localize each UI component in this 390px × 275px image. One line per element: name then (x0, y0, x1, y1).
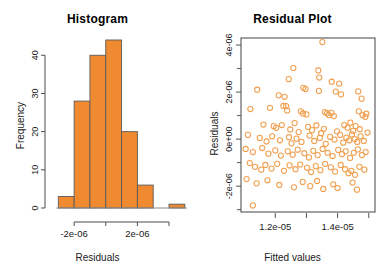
residual-y-tick-label: 0e+00 (224, 126, 234, 151)
residual-point (250, 203, 255, 208)
residual-point (295, 147, 300, 152)
residual-point (296, 129, 301, 134)
residual-point (288, 127, 293, 132)
residual-point (300, 179, 305, 184)
residual-point (314, 123, 319, 128)
histogram-bar (74, 101, 90, 208)
panel-residual: Residual Plot 4e-062e-060e+00-2e-061.2e-… (195, 0, 390, 275)
residual-point (275, 161, 280, 166)
histogram-bar (122, 132, 138, 208)
histogram-plot: 010203040-2e-062e-06 (0, 0, 195, 275)
residual-point (304, 112, 309, 117)
residual-point (358, 134, 363, 139)
residual-y-tick-label: 4e-06 (224, 34, 234, 57)
histogram-xlabel: Residuals (0, 252, 195, 263)
residual-point (261, 122, 266, 127)
residual-point (320, 39, 325, 44)
histogram-y-tick-label: 30 (30, 88, 40, 98)
residual-point (294, 136, 299, 141)
residual-point (276, 93, 281, 98)
residual-ylabel: Residuals (209, 112, 220, 156)
residual-point (359, 96, 364, 101)
residual-point (281, 168, 286, 173)
residual-point (312, 138, 317, 143)
residual-point (338, 162, 343, 167)
residual-point (328, 165, 333, 170)
residual-point (315, 153, 320, 158)
residual-point (345, 125, 350, 130)
residual-point (333, 89, 338, 94)
residual-point (257, 135, 262, 140)
residual-point (313, 164, 318, 169)
histogram-bar (106, 40, 122, 208)
residual-point (357, 127, 362, 132)
residual-point (314, 178, 319, 183)
residual-point (277, 138, 282, 143)
residual-plot: 4e-062e-060e+00-2e-061.2e-051.4e-05 (195, 0, 390, 275)
histogram-y-tick-label: 0 (30, 205, 40, 210)
residual-point (278, 153, 283, 158)
residual-point (352, 172, 357, 177)
residual-point (331, 182, 336, 187)
residual-point (361, 138, 366, 143)
residual-x-tick-label: 1.2e-05 (259, 221, 291, 232)
residual-point (244, 176, 249, 181)
residual-point (348, 120, 353, 125)
residual-point (338, 92, 343, 97)
residual-point (363, 149, 368, 154)
histogram-bar (58, 197, 74, 208)
residual-point (308, 184, 313, 189)
histogram-bar (90, 55, 106, 208)
residual-point (266, 151, 271, 156)
residual-point (357, 164, 362, 169)
residual-point (338, 132, 343, 137)
residual-xlabel: Fitted values (195, 252, 390, 263)
residual-x-tick-label: 1.4e-05 (321, 221, 353, 232)
histogram-y-tick-label: 20 (30, 127, 40, 137)
residual-point (320, 146, 325, 151)
residual-y-tick-label: 2e-06 (224, 81, 234, 104)
residual-point (337, 81, 342, 86)
residual-point (260, 145, 265, 150)
residual-point (291, 185, 296, 190)
residual-point (325, 150, 330, 155)
residual-point (317, 135, 322, 140)
residual-point (304, 165, 309, 170)
residual-point (286, 77, 291, 82)
residual-point (306, 155, 311, 160)
residual-point (263, 162, 268, 167)
residual-point (323, 161, 328, 166)
residual-point (350, 180, 355, 185)
residual-point (307, 133, 312, 138)
residual-point (354, 187, 359, 192)
residual-point (329, 79, 334, 84)
residual-point (341, 140, 346, 145)
histogram-ylabel: Frequency (15, 102, 26, 149)
residual-point (254, 181, 259, 186)
residual-point (265, 178, 270, 183)
residual-point (259, 167, 264, 172)
residual-point (316, 68, 321, 73)
residual-y-tick-label: -2e-06 (224, 173, 234, 199)
residual-point (252, 164, 257, 169)
residual-point (355, 147, 360, 152)
residual-point (299, 139, 304, 144)
residual-point (356, 89, 361, 94)
residual-point (293, 167, 298, 172)
panel-histogram: Histogram 010203040-2e-062e-06 Residuals… (0, 0, 195, 275)
residual-point (264, 139, 269, 144)
residual-point (333, 169, 338, 174)
residual-point (321, 126, 326, 131)
residual-point (247, 160, 252, 165)
residual-point (250, 149, 255, 154)
residual-point (323, 141, 328, 146)
histogram-bar (169, 204, 185, 208)
histogram-y-tick-label: 10 (30, 165, 40, 175)
residual-point (298, 162, 303, 167)
residual-point (245, 132, 250, 137)
residual-point (343, 149, 348, 154)
residual-point (342, 122, 347, 127)
residual-point (270, 134, 275, 139)
residual-point (309, 169, 314, 174)
residual-point (302, 151, 307, 156)
